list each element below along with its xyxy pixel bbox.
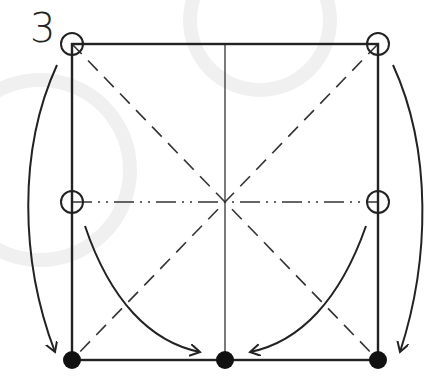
arrow-top-right — [393, 65, 422, 352]
diagram-canvas — [0, 0, 444, 390]
arrow-top-left — [28, 65, 57, 352]
step-number: 3 — [30, 8, 55, 48]
fold-diagram: 3 — [0, 0, 444, 390]
